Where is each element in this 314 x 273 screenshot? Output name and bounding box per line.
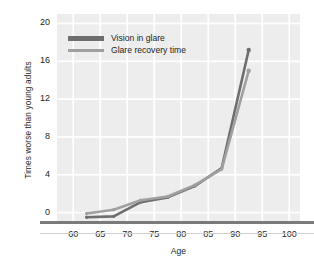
legend-label-vision-in-glare: Vision in glare [111,33,165,44]
legend-swatch-vision-in-glare [68,36,104,41]
axis-footer-line [40,233,314,234]
y-axis-tick-label: 20 [26,17,50,27]
chart-legend: Vision in glare Glare recovery time [68,33,186,57]
x-axis-title: Age [57,246,300,256]
y-axis-tick-label: 0 [26,207,50,217]
legend-item-glare-recovery-time: Glare recovery time [68,45,186,56]
y-axis-tick-label: 4 [26,169,50,179]
legend-swatch-glare-recovery-time [68,49,104,53]
y-axis-tick-label: 12 [26,93,50,103]
chart-figure: Times worse than young adults 048121620 … [0,0,314,273]
legend-item-vision-in-glare: Vision in glare [68,33,186,44]
legend-label-glare-recovery-time: Glare recovery time [111,45,186,56]
zero-baseline [40,221,314,224]
y-axis-tick-label: 8 [26,131,50,141]
y-axis-tick-label: 16 [26,55,50,65]
